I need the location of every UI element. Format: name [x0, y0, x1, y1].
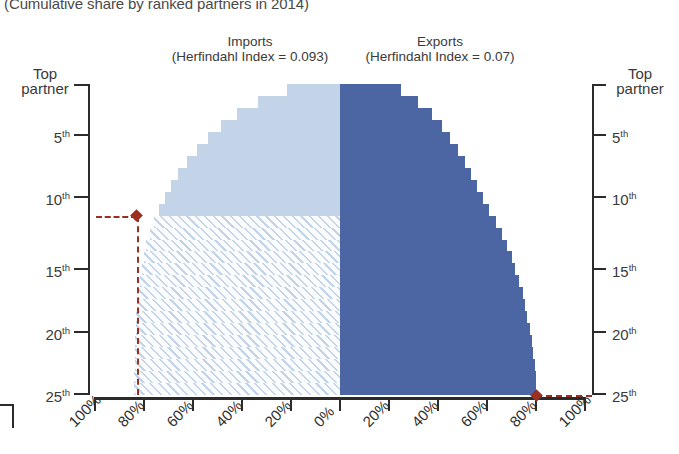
exports-bar-rank-19 [340, 299, 525, 311]
imports-bar-rank-5 [208, 132, 340, 144]
x-axis-label-5: 0% [310, 403, 337, 430]
chart-title: (Cumulative share by ranked partners in … [4, 0, 309, 12]
exports-bar-rank-4 [340, 120, 442, 132]
exports-bar-rank-5 [340, 132, 450, 144]
exports-bar-rank-26 [340, 383, 536, 395]
exports-bar-rank-9 [340, 180, 477, 192]
imports-title: Imports [150, 34, 350, 49]
exports-bar-rank-25 [340, 371, 536, 383]
imports-bar-rank-1 [287, 84, 340, 96]
y-axis-left-label-25: 25th [28, 385, 70, 404]
x-axis-label-0: 100% [65, 391, 104, 430]
y-axis-left-label-20: 20th [28, 323, 70, 342]
y-axis-right-label-top-partner: Top partner [610, 66, 670, 96]
imports-bar-rank-25 [134, 371, 340, 383]
exports-title: Exports [340, 34, 540, 49]
imports-guide-vertical [137, 216, 139, 395]
exports-panel-heading: Exports (Herfindahl Index = 0.07) [340, 34, 540, 64]
imports-bar-rank-11 [159, 204, 340, 216]
y-axis-right-label-15: 15th [612, 260, 637, 279]
exports-bar-rank-2 [340, 96, 418, 108]
imports-bar-rank-6 [197, 144, 340, 156]
imports-bar-rank-10 [165, 192, 340, 204]
exports-bar-rank-3 [340, 108, 432, 120]
plot-area [95, 84, 585, 395]
imports-bar-rank-26 [134, 383, 340, 395]
y-axis-right-label-25: 25th [612, 385, 637, 404]
exports-bar-rank-17 [340, 275, 519, 287]
y-axis-left-tick-10 [74, 196, 88, 198]
imports-bar-rank-8 [178, 168, 340, 180]
exports-herfindahl: (Herfindahl Index = 0.07) [340, 49, 540, 64]
imports-bar-rank-19 [137, 299, 340, 311]
imports-panel-heading: Imports (Herfindahl Index = 0.093) [150, 34, 350, 64]
y-right-partner-word: partner [616, 80, 664, 97]
exports-bar-rank-24 [340, 359, 535, 371]
y-axis-right-tick-15 [592, 268, 606, 270]
y-axis-left-label-top-partner: Top partner [18, 66, 72, 96]
imports-bar-rank-13 [150, 228, 340, 240]
imports-bar-rank-4 [221, 120, 340, 132]
imports-herfindahl: (Herfindahl Index = 0.093) [150, 49, 350, 64]
y-axis-right-label-10: 10th [612, 188, 637, 207]
exports-bar-rank-10 [340, 192, 483, 204]
imports-bar-rank-9 [171, 180, 340, 192]
exports-bar-rank-20 [340, 311, 527, 323]
y-axis-right-tick-25 [592, 393, 606, 395]
exports-bar-rank-22 [340, 335, 532, 347]
y-axis-left-tick-top [74, 84, 88, 86]
exports-bar-rank-23 [340, 347, 533, 359]
y-axis-right-spine [592, 84, 594, 395]
y-axis-right-tick-10 [592, 196, 606, 198]
y-axis-left-label-5: 5th [36, 126, 70, 145]
imports-bar-rank-23 [135, 347, 340, 359]
y-axis-left-label-10: 10th [28, 188, 70, 207]
imports-bar-rank-24 [135, 359, 340, 371]
y-axis-right-tick-5 [592, 134, 606, 136]
y-axis-left-spine [88, 84, 90, 395]
y-axis-left-tick-25 [74, 393, 88, 395]
y-axis-left-tick-5 [74, 134, 88, 136]
imports-bar-rank-20 [136, 311, 340, 323]
y-axis-left-tick-15 [74, 268, 88, 270]
imports-bar-rank-3 [237, 108, 340, 120]
imports-bar-rank-21 [136, 323, 340, 335]
imports-bar-rank-14 [146, 240, 340, 252]
y-left-partner-word: partner [21, 80, 69, 97]
exports-bar-rank-1 [340, 84, 401, 96]
exports-bar-rank-13 [340, 228, 502, 240]
x-axis-tick-0% [339, 397, 341, 411]
exports-bar-rank-16 [340, 263, 515, 275]
exports-bar-rank-21 [340, 323, 530, 335]
imports-bar-rank-17 [140, 275, 340, 287]
imports-bar-rank-22 [135, 335, 340, 347]
y-axis-right-label-20: 20th [612, 323, 637, 342]
exports-guide-horizontal [536, 395, 592, 397]
exports-bar-rank-14 [340, 240, 507, 252]
exports-bar-rank-8 [340, 168, 471, 180]
exports-bar-rank-18 [340, 287, 523, 299]
exports-bar-rank-7 [340, 156, 465, 168]
y-axis-right-label-5: 5th [612, 126, 628, 145]
imports-bar-rank-2 [258, 96, 340, 108]
y-axis-right-tick-top [592, 84, 606, 86]
exports-bar-rank-12 [340, 216, 496, 228]
corner-bracket-vertical [12, 404, 14, 428]
imports-bar-rank-16 [142, 263, 340, 275]
y-axis-left-tick-20 [74, 331, 88, 333]
exports-bar-rank-11 [340, 204, 489, 216]
y-axis-left-label-15: 15th [28, 260, 70, 279]
chart-canvas: (Cumulative share by ranked partners in … [0, 0, 679, 454]
imports-bar-rank-12 [154, 216, 340, 228]
imports-bar-rank-15 [144, 251, 340, 263]
exports-bar-rank-6 [340, 144, 458, 156]
imports-bar-rank-7 [187, 156, 340, 168]
imports-bar-rank-18 [138, 287, 340, 299]
y-axis-right-tick-20 [592, 331, 606, 333]
exports-bar-rank-15 [340, 251, 512, 263]
